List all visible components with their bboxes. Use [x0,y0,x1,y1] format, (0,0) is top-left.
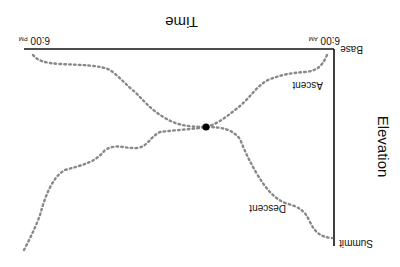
y-axis-title: Elevation [375,116,392,178]
x-tick-start-time: 6:00 [321,35,340,46]
diagram-svg [0,0,400,267]
diagram-canvas: Time 6:00 AM 6:00 PM Elevation Base Summ… [0,0,400,267]
y-tick-summit: Summit [339,238,373,249]
x-axis-title: Time [165,14,198,31]
ascent-curve [23,55,327,252]
descent-label: Descent [249,203,286,214]
x-tick-start: 6:00 AM [309,35,340,46]
intersection-marker [202,123,209,130]
x-tick-end-suffix: PM [19,36,28,42]
x-tick-start-suffix: AM [309,36,318,42]
descent-curve [33,55,332,238]
x-tick-end-time: 6:00 [31,35,50,46]
y-tick-base: Base [340,44,363,55]
ascent-label: Ascent [292,80,323,91]
x-tick-end: 6:00 PM [19,35,50,46]
